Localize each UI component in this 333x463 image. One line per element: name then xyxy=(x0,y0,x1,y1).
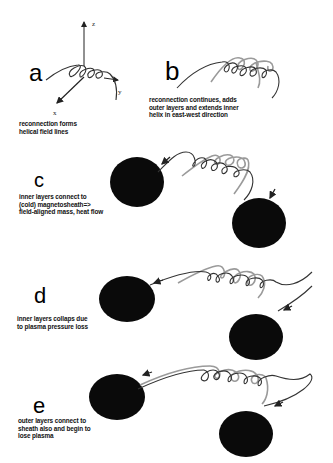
magnetosphere-blob-right xyxy=(232,198,286,248)
magnetosphere-blob-right xyxy=(229,314,283,360)
magnetosphere-blob-left xyxy=(110,157,164,207)
magnetosphere-blob-left xyxy=(99,276,155,322)
panel-a-graphic xyxy=(46,22,118,103)
y-axis-arrow-icon xyxy=(104,78,118,80)
diagram-graphics xyxy=(0,0,333,463)
panel-e-graphic xyxy=(89,366,312,457)
panel-d-graphic xyxy=(99,266,312,360)
x-axis-arrow-icon xyxy=(57,77,84,103)
magnetosphere-blob-right xyxy=(219,411,273,457)
magnetosphere-blob-left xyxy=(89,374,145,420)
flow-arrow-icon xyxy=(143,372,152,375)
flow-arrow-icon xyxy=(270,189,275,198)
panel-b-graphic xyxy=(177,58,279,98)
flow-arrow-icon xyxy=(154,280,163,283)
panel-c-graphic xyxy=(110,152,286,248)
